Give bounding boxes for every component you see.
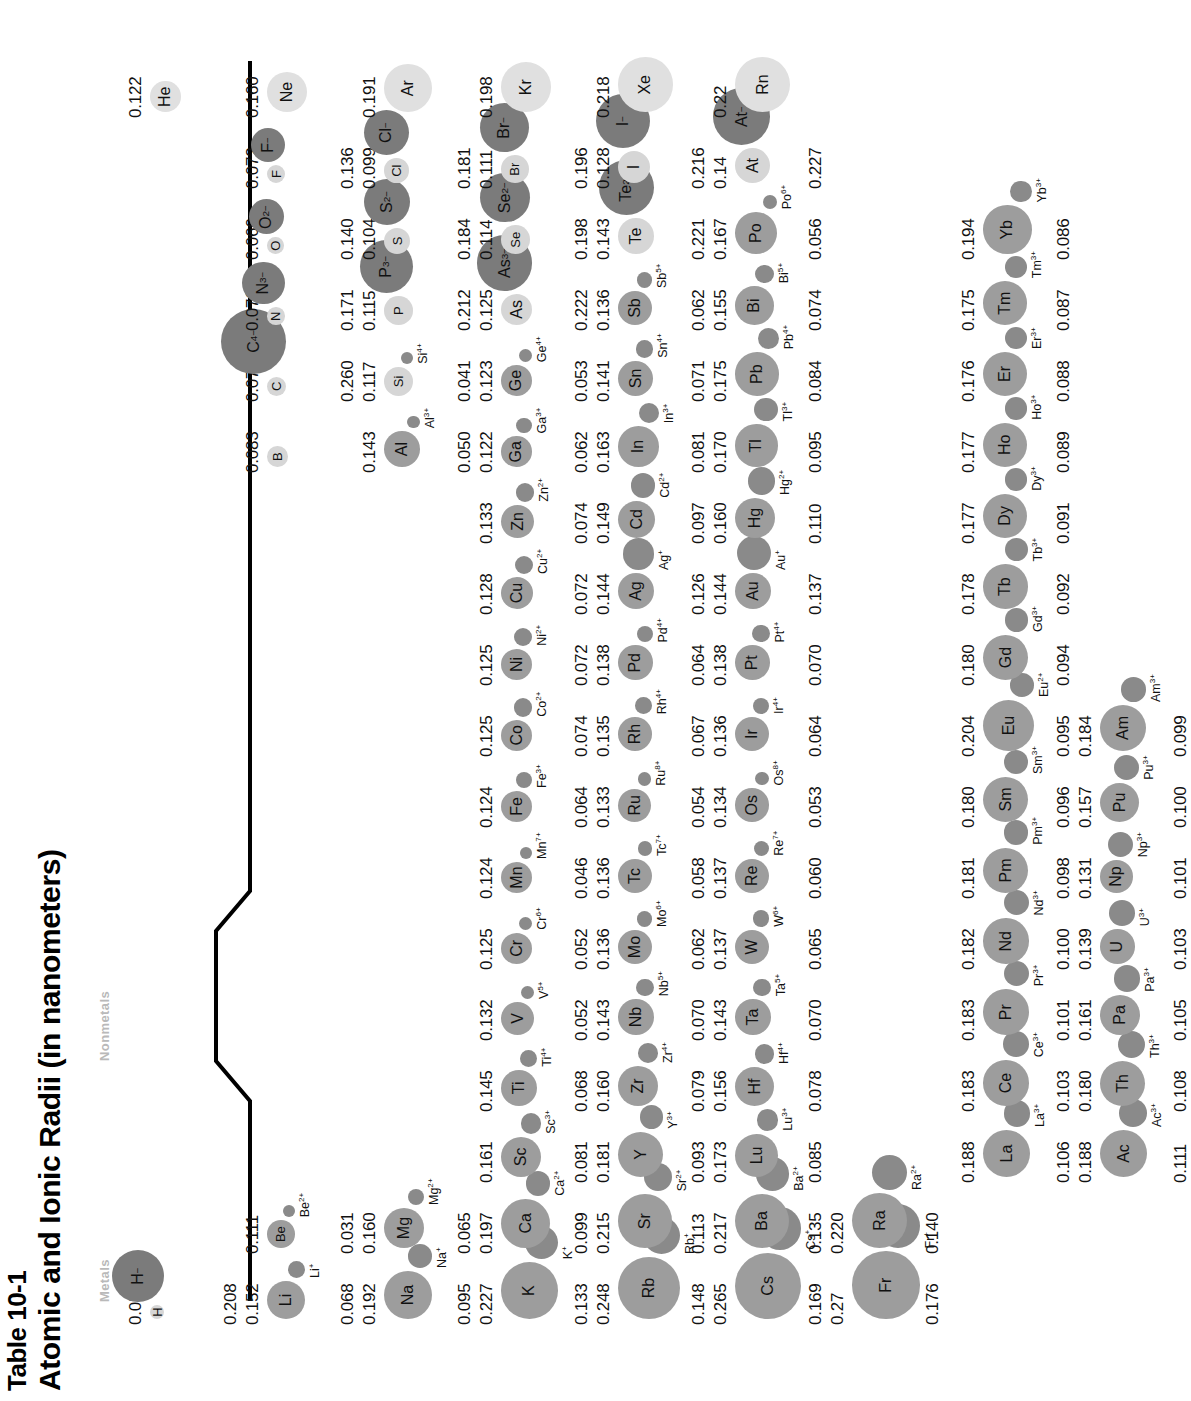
element-cell-b[interactable]: 0.083B bbox=[243, 400, 360, 471]
element-cell-si[interactable]: 0.117SiSi4+0.041 bbox=[360, 329, 477, 400]
element-cell-tm[interactable]: 0.175TmTm3+0.087 bbox=[959, 258, 1076, 329]
element-cell-te[interactable]: 0.143TeTe2−0.221 bbox=[594, 187, 711, 258]
element-cell-y[interactable]: 0.181YY3+0.093 bbox=[594, 1110, 711, 1181]
element-cell-w[interactable]: 0.137WW6+0.065 bbox=[711, 897, 828, 968]
element-cell-pu[interactable]: 0.157PuPu3+0.100 bbox=[1076, 755, 1191, 826]
element-cell-sn[interactable]: 0.141SnSn4+0.071 bbox=[594, 329, 711, 400]
element-cell-la[interactable]: 0.188LaLa3+0.106 bbox=[959, 1110, 1076, 1181]
element-cell-ga[interactable]: 0.122GaGa3+0.062 bbox=[477, 400, 594, 471]
element-cell-ac[interactable]: 0.188AcAc3+0.111 bbox=[1076, 1110, 1191, 1181]
element-symbol-p: P bbox=[384, 296, 413, 325]
element-cell-in[interactable]: 0.163InIn3+0.081 bbox=[594, 400, 711, 471]
element-cell-lu[interactable]: 0.173LuLu3+0.085 bbox=[711, 1110, 828, 1181]
element-cell-pd[interactable]: 0.138PdPd4+0.064 bbox=[594, 613, 711, 684]
element-cell-k[interactable]: 0.227KK+0.133 bbox=[477, 1252, 594, 1323]
element-cell-am[interactable]: 0.184AmAm3+0.099 bbox=[1076, 684, 1191, 755]
element-cell-ca[interactable]: 0.197CaCa2+0.099 bbox=[477, 1181, 594, 1252]
element-cell-gd[interactable]: 0.180GdGd3+0.094 bbox=[959, 613, 1076, 684]
element-cell-i[interactable]: 0.128II−0.216 bbox=[594, 116, 711, 187]
element-cell-hg[interactable]: 0.160HgHg2+0.110 bbox=[711, 471, 828, 542]
element-cell-p[interactable]: 0.115PP3−0.212 bbox=[360, 258, 477, 329]
element-cell-fe[interactable]: 0.124FeFe3+0.064 bbox=[477, 755, 594, 826]
element-cell-rb[interactable]: 0.248RbRb+0.148 bbox=[594, 1252, 711, 1323]
element-cell-sc[interactable]: 0.161ScSc3+0.081 bbox=[477, 1110, 594, 1181]
element-cell-th[interactable]: 0.180ThTh3+0.108 bbox=[1076, 1039, 1191, 1110]
element-cell-sm[interactable]: 0.180SmSm3+0.096 bbox=[959, 755, 1076, 826]
element-symbol-eu: Eu bbox=[983, 700, 1034, 751]
element-cell-ne[interactable]: 0.160Ne bbox=[243, 45, 360, 116]
element-cell-ra[interactable]: 0.220RaRa2+0.140 bbox=[828, 1181, 945, 1252]
element-cell-ti[interactable]: 0.145TiTi4+0.068 bbox=[477, 1039, 594, 1110]
element-cell-ru[interactable]: 0.133RuRu8+0.054 bbox=[594, 755, 711, 826]
element-cell-cu[interactable]: 0.128CuCu2+0.072 bbox=[477, 542, 594, 613]
element-cell-re[interactable]: 0.137ReRe7+0.060 bbox=[711, 826, 828, 897]
element-cell-mg[interactable]: 0.160MgMg2+0.065 bbox=[360, 1181, 477, 1252]
element-cell-tl[interactable]: 0.170TlTl3+0.095 bbox=[711, 400, 828, 471]
element-cell-mn[interactable]: 0.124MnMn7+0.046 bbox=[477, 826, 594, 897]
element-cell-sb[interactable]: 0.136SbSb5+0.062 bbox=[594, 258, 711, 329]
element-cell-rh[interactable]: 0.135RhRh4+0.067 bbox=[594, 684, 711, 755]
element-cell-al[interactable]: 0.143AlAl3+0.050 bbox=[360, 400, 477, 471]
element-cell-nd[interactable]: 0.182NdNd3+0.100 bbox=[959, 897, 1076, 968]
element-cell-co[interactable]: 0.125CoCo2+0.074 bbox=[477, 684, 594, 755]
element-cell-o[interactable]: 0.066OO2−0.140 bbox=[243, 187, 360, 258]
element-cell-tc[interactable]: 0.136TcTc7+0.058 bbox=[594, 826, 711, 897]
element-cell-mo[interactable]: 0.136MoMo6+0.062 bbox=[594, 897, 711, 968]
element-cell-bi[interactable]: 0.155BiBi5+0.074 bbox=[711, 258, 828, 329]
element-cell-he[interactable]: 0.122He bbox=[126, 45, 243, 116]
element-cell-ce[interactable]: 0.183CeCe3+0.103 bbox=[959, 1039, 1076, 1110]
element-cell-cd[interactable]: 0.149CdCd2+0.097 bbox=[594, 471, 711, 542]
element-cell-hf[interactable]: 0.156HfHf4+0.078 bbox=[711, 1039, 828, 1110]
element-cell-pr[interactable]: 0.183PrPr3+0.101 bbox=[959, 968, 1076, 1039]
ion-circle-ni bbox=[514, 628, 532, 646]
element-cell-cr[interactable]: 0.125CrCr6+0.052 bbox=[477, 897, 594, 968]
element-cell-er[interactable]: 0.176ErEr3+0.088 bbox=[959, 329, 1076, 400]
element-cell-c[interactable]: 0.077CC4−0.260 bbox=[243, 329, 360, 400]
element-cell-pb[interactable]: 0.175PbPb4+0.084 bbox=[711, 329, 828, 400]
element-cell-ar[interactable]: 0.191Ar bbox=[360, 45, 477, 116]
element-cell-tb[interactable]: 0.178TbTb3+0.092 bbox=[959, 542, 1076, 613]
element-cell-u[interactable]: 0.139UU3+0.103 bbox=[1076, 897, 1191, 968]
element-cell-ge[interactable]: 0.123GeGe4+0.053 bbox=[477, 329, 594, 400]
element-cell-li[interactable]: 0.152LiLi+0.068 bbox=[243, 1252, 360, 1323]
element-cell-s[interactable]: 0.104SS2−0.184 bbox=[360, 187, 477, 258]
element-cell-h[interactable]: 0.053HH−0.208 bbox=[126, 1252, 243, 1323]
element-cell-rn[interactable]: 0.22Rn bbox=[711, 45, 828, 116]
element-cell-be[interactable]: 0.111BeBe2+0.031 bbox=[243, 1181, 360, 1252]
element-cell-pm[interactable]: 0.181PmPm3+0.098 bbox=[959, 826, 1076, 897]
element-cell-yb[interactable]: 0.194YbYb3+0.086 bbox=[959, 187, 1076, 258]
element-cell-f[interactable]: 0.072FF−0.136 bbox=[243, 116, 360, 187]
element-cell-n[interactable]: 0.070NN3−0.171 bbox=[243, 258, 360, 329]
element-cell-v[interactable]: 0.132VV5+0.052 bbox=[477, 968, 594, 1039]
element-cell-np[interactable]: 0.131NpNp3+0.101 bbox=[1076, 826, 1191, 897]
element-cell-xe[interactable]: 0.218Xe bbox=[594, 45, 711, 116]
element-cell-kr[interactable]: 0.198Kr bbox=[477, 45, 594, 116]
element-cell-nb[interactable]: 0.143NbNb5+0.070 bbox=[594, 968, 711, 1039]
element-cell-po[interactable]: 0.167PoPo6+0.056 bbox=[711, 187, 828, 258]
element-cell-na[interactable]: 0.192NaNa+0.095 bbox=[360, 1252, 477, 1323]
element-cell-fr[interactable]: 0.27FrFr+0.176 bbox=[828, 1252, 945, 1323]
element-cell-eu[interactable]: 0.204EuEu2+0.095 bbox=[959, 684, 1076, 755]
element-cell-au[interactable]: 0.144AuAu+0.137 bbox=[711, 542, 828, 613]
element-cell-ir[interactable]: 0.136IrIr4+0.064 bbox=[711, 684, 828, 755]
element-cell-ta[interactable]: 0.143TaTa5+0.070 bbox=[711, 968, 828, 1039]
element-cell-se[interactable]: 0.114SeSe2−0.198 bbox=[477, 187, 594, 258]
element-cell-ni[interactable]: 0.125NiNi2+0.072 bbox=[477, 613, 594, 684]
element-cell-os[interactable]: 0.134OsOs8+0.053 bbox=[711, 755, 828, 826]
element-cell-zn[interactable]: 0.133ZnZn2+0.074 bbox=[477, 471, 594, 542]
element-cell-ag[interactable]: 0.144AgAg+0.126 bbox=[594, 542, 711, 613]
element-cell-zr[interactable]: 0.160ZrZr4+0.079 bbox=[594, 1039, 711, 1110]
element-cell-as[interactable]: 0.125AsAs3−0.222 bbox=[477, 258, 594, 329]
ion-circle-ta bbox=[753, 979, 771, 997]
element-cell-cl[interactable]: 0.099ClCl−0.181 bbox=[360, 116, 477, 187]
element-cell-pa[interactable]: 0.161PaPa3+0.105 bbox=[1076, 968, 1191, 1039]
element-cell-dy[interactable]: 0.177DyDy3+0.091 bbox=[959, 471, 1076, 542]
element-cell-at[interactable]: 0.14AtAt−0.227 bbox=[711, 116, 828, 187]
element-cell-pt[interactable]: 0.138PtPt4+0.070 bbox=[711, 613, 828, 684]
element-cell-ho[interactable]: 0.177HoHo3+0.089 bbox=[959, 400, 1076, 471]
element-cell-ba[interactable]: 0.217BaBa2+0.135 bbox=[711, 1181, 828, 1252]
element-cell-sr[interactable]: 0.215SrSr2+0.113 bbox=[594, 1181, 711, 1252]
element-cell-cs[interactable]: 0.265CsCs+0.169 bbox=[711, 1252, 828, 1323]
element-symbol-fr: Fr bbox=[852, 1252, 920, 1320]
element-cell-br[interactable]: 0.111BrBr−0.196 bbox=[477, 116, 594, 187]
